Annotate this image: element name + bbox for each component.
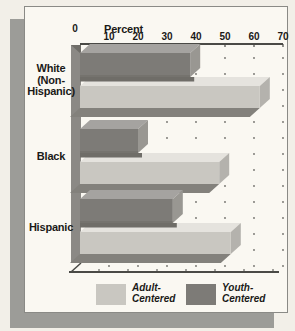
- axis-tick-label: 30: [156, 31, 178, 42]
- axis-tick-label: 40: [185, 31, 207, 42]
- category-label: Black: [25, 151, 77, 163]
- axis-tick-label: 60: [243, 31, 265, 42]
- axis-tick-label: 10: [98, 31, 120, 42]
- chart-card: Percent 0 10203040506070 White(Non-Hispa…: [24, 6, 288, 313]
- legend-label-line: Adult-: [132, 282, 175, 293]
- category-label: White(Non-Hispanic): [25, 63, 77, 98]
- legend-label-line: Centered: [132, 293, 175, 304]
- legend: Adult- Centered Youth- Centered: [25, 282, 289, 312]
- axis-tick-label: 50: [214, 31, 236, 42]
- legend-label-adult-centered: Adult- Centered: [132, 282, 175, 304]
- legend-item-youth-centered: Youth- Centered: [186, 282, 265, 305]
- youth-centered-swatch: [186, 284, 216, 305]
- category-label: Hispanic: [25, 222, 77, 234]
- legend-label-line: Centered: [222, 293, 265, 304]
- axis-tick-label: 20: [127, 31, 149, 42]
- legend-item-adult-centered: Adult- Centered: [96, 282, 175, 305]
- legend-label-youth-centered: Youth- Centered: [222, 282, 265, 304]
- figure: Percent 0 10203040506070 White(Non-Hispa…: [0, 0, 295, 331]
- legend-label-line: Youth-: [222, 282, 265, 293]
- axis-tick-0: 0: [69, 23, 81, 34]
- axis-tick-label: 70: [272, 31, 294, 42]
- adult-centered-swatch: [96, 284, 126, 305]
